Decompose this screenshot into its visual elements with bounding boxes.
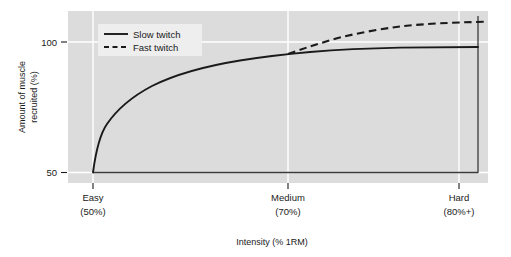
y-axis-title-line2: recruited (%) bbox=[29, 71, 39, 123]
x-tick-label-hard-value: (80%+) bbox=[444, 206, 475, 217]
chart-svg: 100 50 Amount of muscle recruited (%) Ea… bbox=[0, 0, 511, 257]
x-tick-label-hard-name: Hard bbox=[449, 192, 470, 203]
y-tick-label-50: 50 bbox=[46, 167, 57, 178]
x-tick-label-easy-value: (50%) bbox=[80, 206, 105, 217]
chart-figure: 100 50 Amount of muscle recruited (%) Ea… bbox=[0, 0, 511, 257]
chart-legend: Slow twitch Fast twitch bbox=[98, 24, 202, 56]
y-tick-label-100: 100 bbox=[41, 37, 57, 48]
x-tick-label-medium-name: Medium bbox=[271, 192, 305, 203]
legend-label-fast-twitch: Fast twitch bbox=[133, 42, 178, 53]
x-tick-label-easy-name: Easy bbox=[82, 192, 103, 203]
x-tick-label-medium-value: (70%) bbox=[275, 206, 300, 217]
x-axis-title: Intensity (% 1RM) bbox=[236, 237, 308, 247]
legend-label-slow-twitch: Slow twitch bbox=[133, 29, 181, 40]
y-axis-title-line1: Amount of muscle bbox=[17, 61, 27, 133]
